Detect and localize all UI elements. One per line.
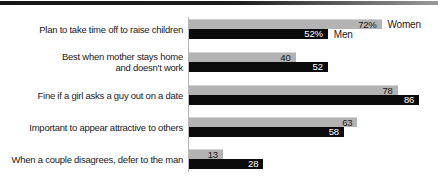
category-label: Important to appear attractive to others <box>0 122 188 133</box>
category-label: Best when mother stays home and doesn't … <box>0 51 188 73</box>
bar-women: 40 <box>188 52 296 62</box>
bar-line-women: 13 <box>188 149 438 159</box>
legend-label-women: Women <box>388 19 421 30</box>
bar-line-men: 58 <box>188 127 438 137</box>
chart-row: Plan to take time off to raise children7… <box>0 19 438 39</box>
bar-women: 72% <box>188 19 382 29</box>
chart-row: Fine if a girl asks a guy out on a date7… <box>0 85 438 105</box>
bar-group: 1328 <box>188 149 438 169</box>
bar-men: 86 <box>188 95 419 105</box>
value-label: 78 <box>383 86 393 96</box>
bar-group: 72%Women52%Men <box>188 19 438 39</box>
legend-label-men: Men <box>334 29 353 40</box>
category-label: Fine if a girl asks a guy out on a date <box>0 90 188 101</box>
value-label: 72% <box>358 20 376 30</box>
bar-line-men: 52%Men <box>188 29 438 39</box>
value-label: 28 <box>248 159 258 169</box>
value-label: 58 <box>329 127 339 137</box>
chart-row: When a couple disagrees, defer to the ma… <box>0 149 438 169</box>
value-label: 13 <box>208 150 218 160</box>
bar-women: 13 <box>188 149 223 159</box>
bar-men: 28 <box>188 159 263 169</box>
category-label: Plan to take time off to raise children <box>0 24 188 35</box>
top-rule <box>0 1 438 5</box>
category-label: When a couple disagrees, defer to the ma… <box>0 154 188 165</box>
bar-group: 7886 <box>188 85 438 105</box>
bar-men: 58 <box>188 127 344 137</box>
bar-women: 78 <box>188 85 398 95</box>
bar-line-men: 86 <box>188 95 438 105</box>
value-label: 52 <box>313 62 323 72</box>
bar-line-men: 28 <box>188 159 438 169</box>
value-label: 52% <box>304 29 322 39</box>
bar-line-women: 63 <box>188 117 438 127</box>
bar-chart-figure: Plan to take time off to raise children7… <box>0 0 438 186</box>
bar-men: 52% <box>188 29 328 39</box>
chart-row: Best when mother stays home and doesn't … <box>0 51 438 73</box>
value-label: 40 <box>280 53 290 63</box>
chart-row: Important to appear attractive to others… <box>0 117 438 137</box>
value-label: 86 <box>404 95 414 105</box>
bar-group: 6358 <box>188 117 438 137</box>
bar-line-women: 78 <box>188 85 438 95</box>
chart-rows: Plan to take time off to raise children7… <box>0 19 438 169</box>
bar-men: 52 <box>188 62 328 72</box>
bar-group: 4052 <box>188 52 438 72</box>
chart-area: Plan to take time off to raise children7… <box>0 19 438 169</box>
value-label: 63 <box>342 118 352 128</box>
bar-line-men: 52 <box>188 62 438 72</box>
